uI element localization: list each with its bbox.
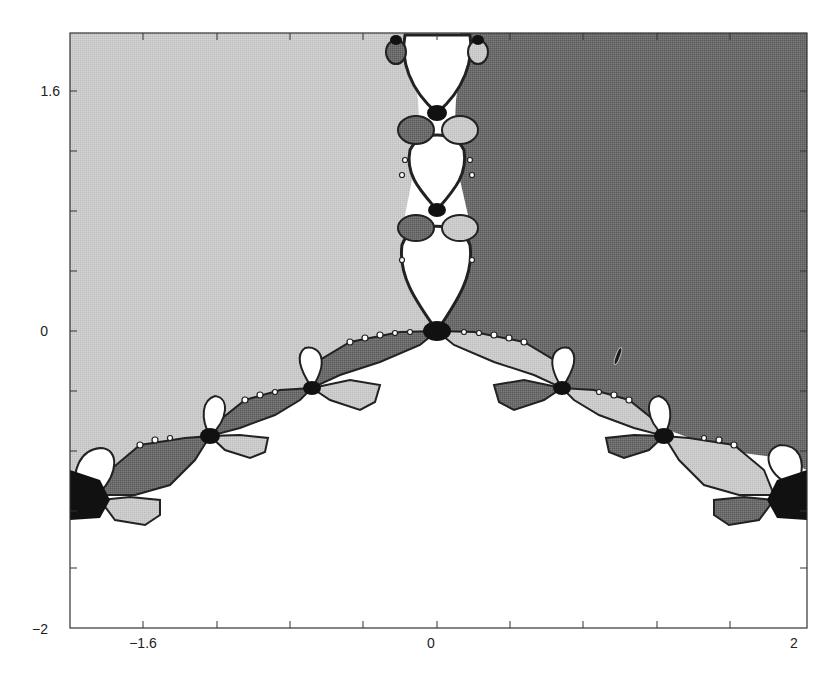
x-tick-label-neg1-6: −1.6 [129, 635, 157, 651]
petal [442, 116, 478, 144]
x-tick-label-2: 2 [790, 635, 798, 651]
x-tick-label-0: 0 [427, 635, 435, 651]
plot-area [70, 33, 807, 628]
petal [398, 116, 434, 144]
petal [398, 215, 434, 241]
y-tick-label-1-6: 1.6 [41, 83, 61, 99]
petal [442, 215, 478, 241]
fractal-plot: −1.6 0 2 1.6 0 −2 [0, 0, 832, 681]
y-tick-label-neg2: −2 [32, 621, 48, 637]
y-tick-label-0: 0 [40, 323, 48, 339]
